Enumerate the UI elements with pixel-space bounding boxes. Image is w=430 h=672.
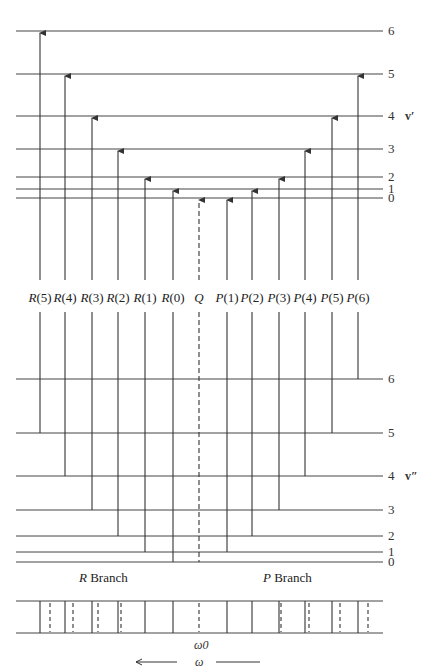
- transition-label-p4: P(4): [292, 290, 316, 305]
- omega-axis-label: ω: [195, 655, 203, 669]
- transition-label-r0: R(0): [160, 290, 184, 305]
- lower-level-label-6: 6: [388, 371, 395, 386]
- upper-level-label-2: 2: [388, 169, 395, 184]
- lower-transition-lines: [40, 312, 358, 562]
- transition-label-r5: R(5): [27, 290, 51, 305]
- omega-zero-label: ω0: [194, 638, 208, 652]
- lower-level-label-1: 1: [388, 544, 395, 559]
- upper-level-label-3: 3: [388, 141, 395, 156]
- upper-level-label-4: 4: [388, 108, 395, 123]
- p-branch-label: P Branch: [262, 570, 312, 585]
- transition-label-p2: P(2): [239, 290, 263, 305]
- lower-level-label-5: 5: [388, 425, 395, 440]
- transition-labels: R(5)R(4)R(3)R(2)R(1)R(0)QP(1)P(2)P(3)P(4…: [27, 290, 369, 305]
- upper-level-label-5: 5: [388, 66, 395, 81]
- spectrum-strip: [16, 601, 383, 633]
- transition-label-r3: R(3): [79, 290, 103, 305]
- lower-level-label-4: 4: [388, 468, 395, 483]
- transition-label-p5: P(5): [319, 290, 343, 305]
- transition-label-p3: P(3): [266, 290, 290, 305]
- transition-label-p6: P(6): [345, 290, 369, 305]
- transition-label-p1: P(1): [214, 290, 238, 305]
- transition-label-q: Q: [194, 290, 204, 305]
- lower-level-label-2: 2: [388, 528, 395, 543]
- transition-label-r2: R(2): [105, 290, 129, 305]
- energy-level-diagram: 0123456 0123456 R(5)R(4)R(3)R(2)R(1)R(0)…: [0, 0, 430, 672]
- lower-state-label: v″: [405, 469, 418, 483]
- r-branch-label: R Branch: [78, 570, 128, 585]
- upper-level-label-6: 6: [388, 23, 395, 38]
- transition-label-r1: R(1): [132, 290, 156, 305]
- upper-state-label: v′: [405, 109, 414, 123]
- transition-label-r4: R(4): [52, 290, 76, 305]
- lower-level-label-3: 3: [388, 502, 395, 517]
- upper-state-levels: 0123456: [16, 23, 395, 205]
- upper-transition-arrows: [40, 33, 358, 280]
- lower-state-levels: 0123456: [16, 371, 395, 569]
